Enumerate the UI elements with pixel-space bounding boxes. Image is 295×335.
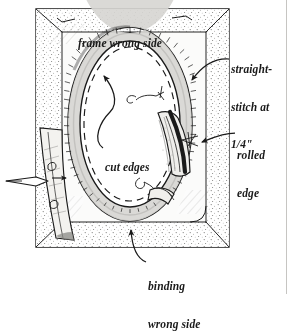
- label-frame-wrong-side: frame wrong side: [78, 12, 162, 75]
- label-cut-edges-text: cut edges: [105, 161, 150, 174]
- label-binding-wrong-side-line1: binding: [148, 280, 200, 293]
- label-rolled-edge: rolled edge: [237, 124, 265, 224]
- label-frame-wrong-side-text: frame wrong side: [78, 37, 162, 50]
- label-binding-wrong-side-line2: wrong side: [148, 318, 200, 331]
- label-cut-edges: cut edges: [105, 136, 150, 199]
- label-straight-stitch-line1: straight-: [231, 63, 272, 76]
- label-rolled-edge-line2: edge: [237, 187, 265, 200]
- label-binding-wrong-side: binding wrong side: [148, 255, 200, 335]
- label-rolled-edge-line1: rolled: [237, 149, 265, 162]
- label-straight-stitch-line2: stitch at: [231, 101, 272, 114]
